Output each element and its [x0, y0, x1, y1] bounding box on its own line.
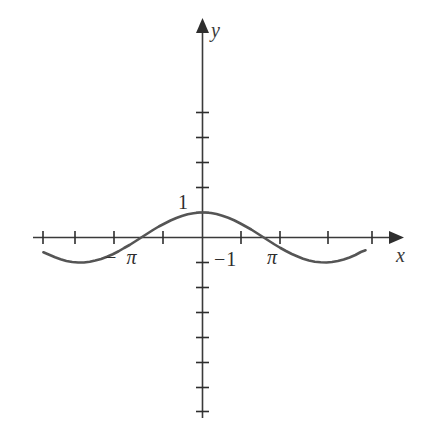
x-axis-arrowhead [389, 231, 404, 244]
y-axis-arrowhead [196, 18, 209, 33]
y-tick-label-negative-one: −1 [214, 249, 237, 269]
cosine-graph-figure: y x 1 −1 − π π [0, 0, 427, 432]
graph-canvas [0, 0, 427, 432]
x-axis-label: x [396, 245, 405, 265]
y-tick-label-one: 1 [178, 192, 188, 212]
x-tick-label-pi: π [267, 247, 277, 267]
x-tick-label-negative-pi: − π [104, 247, 139, 267]
y-axis-label: y [211, 20, 220, 40]
